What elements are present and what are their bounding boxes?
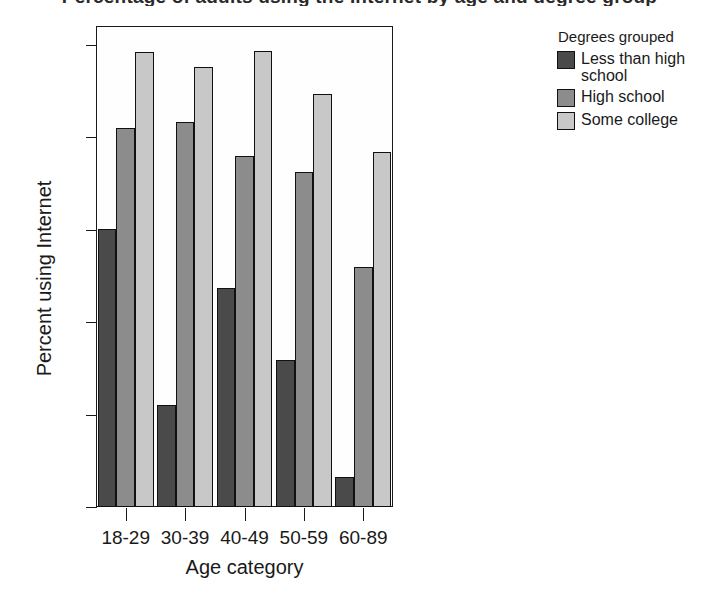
y-tick-mark bbox=[86, 415, 97, 416]
bar-50-59-high-school bbox=[295, 172, 314, 507]
bar-30-39-some-college bbox=[194, 67, 213, 507]
legend: Degrees grouped Less than high schoolHig… bbox=[557, 28, 717, 134]
bar-60-89-high-school bbox=[354, 267, 373, 507]
y-tick-mark bbox=[86, 137, 97, 138]
bar-18-29-less-than-high-school bbox=[98, 229, 117, 507]
legend-title: Degrees grouped bbox=[558, 28, 717, 45]
y-tick-mark bbox=[86, 45, 97, 46]
bar-18-29-high-school bbox=[116, 128, 135, 507]
y-tick-mark bbox=[86, 322, 97, 323]
legend-entries: Less than high schoolHigh schoolSome col… bbox=[557, 50, 717, 130]
legend-item-label: Less than high school bbox=[581, 50, 717, 84]
bar-60-89-less-than-high-school bbox=[335, 477, 354, 507]
y-axis-label: Percent using Internet bbox=[33, 69, 56, 489]
x-axis-label: Age category bbox=[96, 556, 393, 579]
legend-item: High school bbox=[557, 88, 717, 107]
chart-figure: Percentage of adults using the Internet … bbox=[0, 0, 719, 594]
bar-30-39-high-school bbox=[176, 122, 195, 507]
legend-swatch-icon bbox=[557, 89, 575, 107]
legend-swatch-icon bbox=[557, 112, 575, 130]
y-tick-mark bbox=[86, 507, 97, 508]
y-tick-mark bbox=[86, 230, 97, 231]
x-tick-label-60-89: 60-89 bbox=[318, 527, 408, 549]
bar-40-49-less-than-high-school bbox=[217, 288, 236, 507]
bar-40-49-some-college bbox=[254, 51, 273, 507]
legend-item: Some college bbox=[557, 111, 717, 130]
bar-40-49-high-school bbox=[235, 156, 254, 507]
legend-item: Less than high school bbox=[557, 50, 717, 84]
x-tick-mark bbox=[185, 508, 186, 521]
x-tick-mark bbox=[363, 508, 364, 521]
legend-item-label: High school bbox=[581, 88, 665, 105]
x-tick-mark bbox=[304, 508, 305, 521]
page-title: Percentage of adults using the Internet … bbox=[0, 0, 719, 6]
legend-item-label: Some college bbox=[581, 111, 678, 128]
bar-50-59-less-than-high-school bbox=[276, 360, 295, 507]
x-tick-mark bbox=[245, 508, 246, 521]
bar-30-39-less-than-high-school bbox=[157, 405, 176, 507]
bar-60-89-some-college bbox=[373, 152, 392, 507]
bars-layer bbox=[96, 26, 393, 507]
bar-18-29-some-college bbox=[135, 52, 154, 507]
bar-50-59-some-college bbox=[313, 94, 332, 507]
chart-title-clipped: Percentage of adults using the Internet … bbox=[0, 0, 719, 6]
legend-swatch-icon bbox=[557, 51, 575, 69]
x-tick-mark bbox=[126, 508, 127, 521]
